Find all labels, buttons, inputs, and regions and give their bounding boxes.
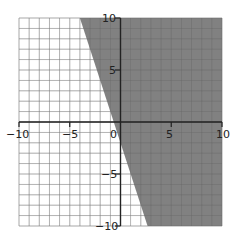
x-tick-label: −10 xyxy=(6,128,29,141)
y-tick-label: 5 xyxy=(109,64,116,77)
x-tick-label: 5 xyxy=(166,128,173,141)
y-tick-label: −10 xyxy=(95,220,118,233)
inequality-graph: −10 −5 0 5 10 10 5 −5 −10 xyxy=(0,0,244,245)
x-tick-label: 0 xyxy=(110,128,117,141)
x-tick-label: −5 xyxy=(62,128,78,141)
y-tick-label: −5 xyxy=(101,168,117,181)
x-tick-label: 10 xyxy=(216,128,230,141)
y-tick-label: 10 xyxy=(102,12,116,25)
